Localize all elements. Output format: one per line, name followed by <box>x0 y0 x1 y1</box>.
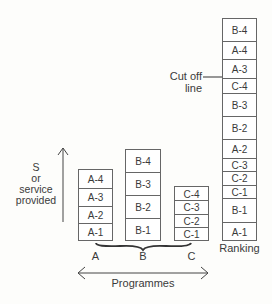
rank-block: A-3 <box>223 59 256 78</box>
rank-block: B-1 <box>223 198 256 222</box>
block-a-2: A-2 <box>79 206 112 224</box>
block-b-4: B-4 <box>126 150 160 173</box>
cutoff-label: Cut off line <box>150 70 202 94</box>
brace <box>96 243 191 250</box>
block-c-3: C-3 <box>175 200 208 214</box>
block-c-4: C-4 <box>175 187 208 201</box>
rank-block: C-4 <box>223 78 256 93</box>
rank-block: B-2 <box>223 116 256 139</box>
block-a-4: A-4 <box>79 170 112 188</box>
rank-block: B-4 <box>223 19 256 41</box>
rank-block: C-1 <box>223 185 256 198</box>
programme-a-label: A <box>78 250 113 262</box>
block-b-1: B-1 <box>126 218 160 241</box>
block-b-2: B-2 <box>126 195 160 218</box>
x-axis-label: Programmes <box>78 277 208 289</box>
programme-c-column: C-4 C-3 C-2 C-1 <box>174 186 209 241</box>
rank-block: C-3 <box>223 158 256 171</box>
rank-block: C-2 <box>223 171 256 185</box>
y-label-line: provided <box>12 195 60 206</box>
programme-c-label: C <box>174 250 209 262</box>
rank-block: A-1 <box>223 222 256 241</box>
programme-b-label: B <box>125 250 161 262</box>
programme-b-column: B-4 B-3 B-2 B-1 <box>125 149 161 241</box>
ranking-column: B-4 A-4 A-3 C-4 B-3 B-2 A-2 C-3 C-2 C-1 … <box>222 18 257 241</box>
ranking-label: Ranking <box>214 242 265 254</box>
rank-block: A-4 <box>223 41 256 59</box>
block-a-3: A-3 <box>79 188 112 206</box>
programme-a-column: A-4 A-3 A-2 A-1 <box>78 169 113 241</box>
block-b-3: B-3 <box>126 172 160 195</box>
block-a-1: A-1 <box>79 223 112 241</box>
block-c-1: C-1 <box>175 227 208 241</box>
y-axis-label: S or service provided <box>12 162 60 206</box>
rank-block: B-3 <box>223 93 256 116</box>
rank-block: A-2 <box>223 139 256 158</box>
block-c-2: C-2 <box>175 214 208 228</box>
